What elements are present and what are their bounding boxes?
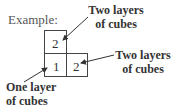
arrow-icon [24, 68, 47, 82]
arrow-icon [81, 55, 114, 63]
arrow-icon [63, 17, 88, 40]
arrows-layer [0, 0, 174, 109]
